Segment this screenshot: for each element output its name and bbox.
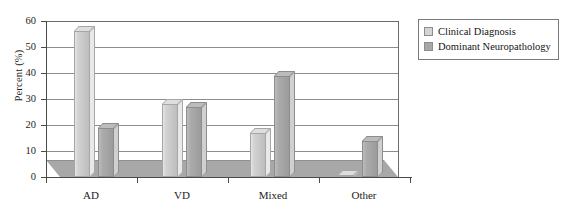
y-tick-60 <box>41 21 47 22</box>
x-tick-1 <box>137 178 138 183</box>
bar-side-face <box>378 136 383 177</box>
bar-side-face <box>90 26 95 177</box>
legend-swatch-icon-clinical-diagnosis <box>424 27 433 36</box>
bar-mixed-clinical-diagnosis <box>250 133 266 177</box>
x-axis-line <box>46 177 412 178</box>
bar-mixed-dominant-neuropathology <box>274 76 290 177</box>
bar-front-face <box>74 31 90 177</box>
x-tick-end <box>410 178 411 183</box>
bar-ad-clinical-diagnosis <box>74 31 90 177</box>
bar-side-face <box>290 71 295 177</box>
bar-side-face <box>114 123 119 177</box>
y-tick-label-10: 10 <box>6 146 36 156</box>
legend-entry-clinical-diagnosis: Clinical Diagnosis <box>424 24 551 39</box>
bar-front-face <box>274 76 290 177</box>
bar-front-face <box>250 133 266 177</box>
bars-layer <box>46 21 398 177</box>
y-tick-label-0: 0 <box>6 172 36 182</box>
legend-label-dominant-neuropathology: Dominant Neuropathology <box>438 41 551 53</box>
y-tick-label-50: 50 <box>6 42 36 52</box>
y-tick-label-40: 40 <box>6 68 36 78</box>
x-tick-label-other: Other <box>319 189 409 201</box>
legend-swatch-icon-dominant-neuropathology <box>424 42 433 51</box>
bar-side-face <box>266 128 271 177</box>
y-tick-40 <box>41 73 47 74</box>
x-tick-2 <box>228 178 229 183</box>
y-tick-20 <box>41 125 47 126</box>
y-tick-label-30: 30 <box>6 94 36 104</box>
bar-ad-dominant-neuropathology <box>98 128 114 177</box>
plot-right-edge <box>398 21 399 177</box>
bar-side-face <box>202 102 207 177</box>
y-tick-50 <box>41 47 47 48</box>
x-tick-3 <box>319 178 320 183</box>
bar-chart-figure: Percent (%) <box>0 0 574 216</box>
bar-front-face <box>186 107 202 177</box>
bar-front-face <box>362 141 378 177</box>
x-tick-start <box>46 178 47 183</box>
x-tick-label-mixed: Mixed <box>228 189 318 201</box>
bar-side-face <box>178 99 183 177</box>
x-tick-label-ad: AD <box>46 189 136 201</box>
legend-entry-dominant-neuropathology: Dominant Neuropathology <box>424 39 551 54</box>
bar-other-dominant-neuropathology <box>362 141 378 177</box>
x-tick-label-vd: VD <box>137 189 227 201</box>
y-tick-label-20: 20 <box>6 120 36 130</box>
bar-front-face <box>98 128 114 177</box>
y-tick-label-60: 60 <box>6 16 36 26</box>
legend-label-clinical-diagnosis: Clinical Diagnosis <box>438 26 516 38</box>
chart-legend: Clinical Diagnosis Dominant Neuropatholo… <box>418 19 559 60</box>
y-tick-30 <box>41 99 47 100</box>
y-tick-10 <box>41 151 47 152</box>
bar-front-face <box>162 104 178 177</box>
bar-vd-clinical-diagnosis <box>162 104 178 177</box>
bar-vd-dominant-neuropathology <box>186 107 202 177</box>
